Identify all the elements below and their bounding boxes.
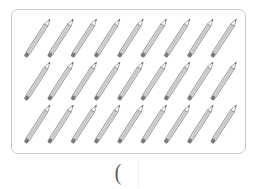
pencil-icon xyxy=(140,104,168,144)
pencil-icon xyxy=(47,18,75,58)
pencil-icon xyxy=(24,61,52,101)
pencil-icon xyxy=(47,104,75,144)
pencil-icon xyxy=(94,61,122,101)
pencil-icon xyxy=(163,18,191,58)
pencil-icon xyxy=(140,18,168,58)
pencil-icon xyxy=(70,104,98,144)
pencil-icon xyxy=(163,61,191,101)
pencil-icon xyxy=(24,104,52,144)
pencil-icon xyxy=(47,61,75,101)
pencil-icon xyxy=(94,104,122,144)
pencil-icon xyxy=(210,104,238,144)
pencil-icon xyxy=(117,104,145,144)
pencil-icon xyxy=(117,61,145,101)
pencil-icon xyxy=(163,104,191,144)
pencil-icon xyxy=(70,61,98,101)
pencil-icon xyxy=(140,61,168,101)
pencil-icon xyxy=(94,18,122,58)
pencil-grid xyxy=(0,0,263,189)
pencil-icon xyxy=(117,18,145,58)
answer-guide-line xyxy=(138,158,139,188)
pencil-icon xyxy=(210,18,238,58)
pencil-icon xyxy=(187,18,215,58)
pencil-icon xyxy=(187,104,215,144)
pencil-icon xyxy=(70,18,98,58)
pencil-icon xyxy=(210,61,238,101)
pencil-icon xyxy=(187,61,215,101)
answer-parenthesis: ( xyxy=(115,160,121,184)
pencil-icon xyxy=(24,18,52,58)
